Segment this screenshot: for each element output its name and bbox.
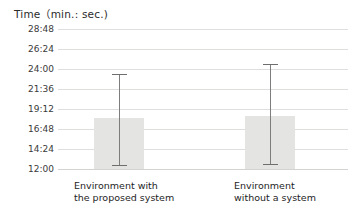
y-axis-tick-label: 14:24 bbox=[2, 144, 54, 154]
y-axis-tick-label: 28:48 bbox=[2, 24, 54, 34]
error-bar-cap-bottom bbox=[112, 165, 127, 166]
error-bar-stem bbox=[270, 64, 271, 166]
y-axis-tick-label: 21:36 bbox=[2, 84, 54, 94]
bar-chart: Time（min.: sec.) 28:48 26:24 24:00 21:36… bbox=[0, 0, 364, 214]
gridline bbox=[58, 109, 348, 110]
gridline bbox=[58, 49, 348, 50]
gridline bbox=[58, 89, 348, 90]
error-bar-cap-top bbox=[263, 64, 278, 65]
gridline-baseline bbox=[58, 169, 348, 170]
y-axis-tick-labels: 28:48 26:24 24:00 21:36 19:12 16:48 14:2… bbox=[0, 29, 54, 169]
y-axis-tick-label: 19:12 bbox=[2, 104, 54, 114]
y-axis-title: Time（min.: sec.) bbox=[14, 6, 108, 21]
error-bar-cap-bottom bbox=[263, 164, 278, 165]
error-bar bbox=[260, 64, 280, 166]
plot-area bbox=[58, 29, 348, 169]
x-axis-category-label: Environment with the proposed system bbox=[74, 180, 174, 204]
gridline bbox=[58, 69, 348, 70]
gridline bbox=[58, 29, 348, 30]
error-bar-stem bbox=[119, 74, 120, 166]
y-axis-tick-label: 16:48 bbox=[2, 124, 54, 134]
y-axis-tick-label: 12:00 bbox=[2, 164, 54, 174]
x-axis-category-label: Environment without a system bbox=[234, 180, 316, 204]
error-bar bbox=[109, 74, 129, 166]
y-axis-tick-label: 26:24 bbox=[2, 44, 54, 54]
y-axis-tick-label: 24:00 bbox=[2, 64, 54, 74]
error-bar-cap-top bbox=[112, 74, 127, 75]
